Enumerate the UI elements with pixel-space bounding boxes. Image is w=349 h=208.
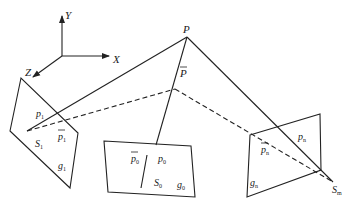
plane-outline — [10, 78, 78, 188]
rays-to-P — [27, 37, 333, 182]
svg-text:P: P — [179, 67, 187, 79]
point-Pbar-label: P — [179, 67, 187, 79]
ray-P-S0 — [156, 37, 187, 145]
ray-S1-P — [27, 37, 187, 131]
Sm-label: Sm — [332, 184, 342, 196]
p1bar-label: p1 — [57, 130, 66, 143]
svg-text:p0: p0 — [130, 153, 139, 165]
slash-divider — [141, 155, 147, 188]
coordinate-axes: Y X Z — [25, 9, 121, 78]
svg-text:pn: pn — [260, 144, 269, 156]
x-axis-label: X — [112, 53, 121, 65]
g1-label: g1 — [58, 160, 66, 172]
p0-label: p0 — [157, 153, 166, 165]
gn-label: gn — [250, 177, 258, 189]
plane-outline — [247, 114, 321, 197]
z-axis-arrow — [33, 56, 62, 77]
p1-label: p1 — [35, 108, 44, 120]
g0-label: g0 — [177, 179, 185, 191]
S0-label: S0 — [154, 177, 162, 189]
projection-diagram: Y X Z P P p1 p1 S1 g1 p0 p0 — [0, 0, 349, 208]
point-P-label: P — [182, 23, 190, 35]
image-plane-n — [247, 114, 321, 197]
S1-label: S1 — [35, 138, 43, 150]
ray-S1-Pbar — [27, 89, 175, 131]
z-axis-label: Z — [25, 66, 32, 78]
p0bar-label: p0 — [130, 152, 139, 165]
svg-text:p1: p1 — [57, 131, 66, 143]
pnbar-label: pn — [260, 143, 269, 156]
pn-label: pn — [297, 131, 306, 143]
ray-P-Sm — [187, 37, 333, 182]
image-plane-1 — [10, 78, 78, 188]
y-axis-label: Y — [65, 9, 73, 21]
